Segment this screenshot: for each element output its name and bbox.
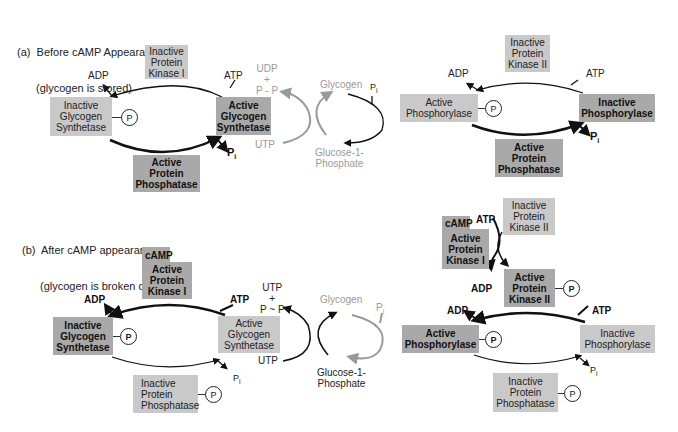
adp-label: ADP (471, 283, 492, 294)
adp-label: ADP (448, 68, 469, 79)
inactive-protein-kinase-2-box: Inactive Protein Kinase II (503, 198, 555, 235)
active-phosphorylase-box: Active Phosphorylase (400, 94, 478, 122)
phosphate-circle: P (564, 385, 581, 402)
inactive-protein-phosphatase-box: Inactive Protein Phosphatase (133, 375, 198, 413)
active-protein-kinase-1-box: Active Protein Kinase I (142, 262, 192, 299)
pi-label: Pi (376, 302, 384, 317)
active-protein-kinase-2-box: Active Protein Kinase II (504, 269, 555, 307)
glucose-1-phosphate-label: Glucose-1- Phosphate (317, 367, 366, 389)
phosphate-bond (478, 108, 485, 109)
panel-a-title-line1: (a) Before cAMP Appearance (17, 46, 163, 58)
inactive-protein-kinase-1-box: Inactive Protein Kinase I (145, 45, 188, 79)
pi-label: Pi (590, 365, 598, 379)
adp-label: ADP (447, 305, 468, 316)
camp-tab: cAMP (142, 247, 170, 263)
phosphate-circle: P (485, 331, 502, 348)
phosphate-circle: P (485, 100, 502, 117)
active-phosphorylase-box: Active Phosphorylase (402, 325, 479, 353)
active-protein-phosphatase-box: Active Protein Phosphatase (495, 139, 563, 177)
utp-ppi-label: UTP + P ~ P (260, 282, 285, 315)
active-glycogen-synthetase-box: Active Glycogen Synthetase (216, 97, 271, 135)
glycogen-label: Glycogen (320, 294, 362, 305)
atp-label: ATP (476, 214, 495, 225)
panel-a-title: (a) Before cAMP Appearance (glycogen is … (17, 22, 163, 106)
adp-label: ADP (84, 294, 105, 305)
phosphate-bond (113, 336, 120, 337)
active-protein-phosphatase-box: Active Protein Phosphatase (133, 155, 200, 192)
glucose-1-phosphate-label: Glucose-1- Phosphate (315, 147, 364, 169)
inactive-glycogen-synthetase-box: Inactive Glycogen Synthetase (53, 317, 113, 355)
pi-label: Pi (370, 82, 378, 96)
camp-tab: cAMP (442, 216, 470, 230)
atp-label: ATP (592, 305, 611, 316)
active-glycogen-synthetase-box: Active Glycogen Synthetase (218, 316, 280, 353)
phosphate-circle: P (121, 109, 138, 126)
phosphate-bond (555, 288, 563, 289)
atp-label: ATP (224, 70, 243, 81)
pi-label: Pi (233, 373, 241, 387)
pi-label: Pi (227, 147, 236, 162)
inactive-phosphorylase-box: Inactive Phosphorylase (579, 94, 655, 122)
inactive-phosphorylase-box: Inactive Phosphorylase (580, 325, 655, 353)
utp-label: UTP (255, 139, 275, 150)
adp-label: ADP (88, 70, 109, 81)
phosphate-circle: P (120, 328, 137, 345)
phosphate-circle: P (563, 280, 580, 297)
phosphate-bond (198, 394, 205, 395)
panel-a-title-line2: (glycogen is stored) (17, 82, 163, 94)
active-protein-kinase-1-box: Active Protein Kinase I (442, 229, 489, 269)
inactive-protein-phosphatase-box: Inactive Protein Phosphatase (493, 373, 558, 412)
phosphate-bond (112, 117, 121, 118)
phosphate-circle: P (205, 386, 222, 403)
utp-label: UTP (258, 355, 278, 366)
atp-label: ATP (230, 294, 249, 305)
pi-label: Pi (590, 131, 599, 146)
udp-ppi-label: UDP + P - P (256, 63, 278, 96)
atp-label: ATP (586, 68, 605, 79)
glycogen-label: Glycogen (320, 79, 362, 90)
inactive-protein-kinase-2-box: Inactive Protein Kinase II (505, 35, 550, 72)
inactive-glycogen-synthetase-box: Inactive Glycogen Synthetase (50, 97, 112, 136)
